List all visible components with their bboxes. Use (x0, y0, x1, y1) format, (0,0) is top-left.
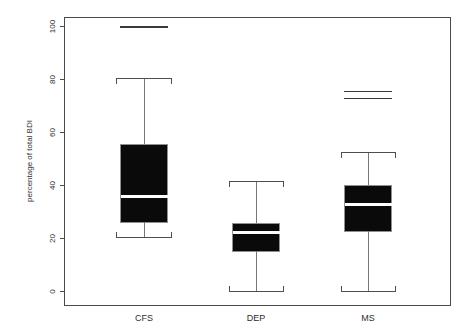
x-label-ms: MS (361, 313, 375, 323)
box-cfs (121, 145, 168, 223)
y-tick-label-40: 40 (48, 181, 57, 190)
y-tick-label-60: 60 (48, 128, 57, 137)
box-ms (345, 186, 392, 232)
x-label-cfs: CFS (135, 313, 153, 323)
y-axis-label: percentage of total BDI (25, 120, 34, 202)
y-tick-label-0: 0 (48, 289, 57, 294)
y-tick-label-100: 100 (48, 19, 57, 33)
boxplot-figure: 100 80 60 40 20 0 percentage of total BD… (0, 0, 474, 334)
x-label-dep: DEP (247, 313, 266, 323)
figure-background (0, 0, 474, 334)
box-dep (233, 224, 280, 252)
y-tick-label-80: 80 (48, 75, 57, 84)
boxplot-canvas: 100 80 60 40 20 0 percentage of total BD… (0, 0, 474, 334)
y-tick-label-20: 20 (48, 234, 57, 243)
